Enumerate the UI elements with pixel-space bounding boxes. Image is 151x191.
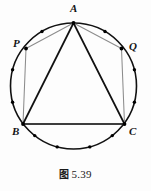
vertex-dot-group <box>21 21 126 126</box>
geometry-canvas <box>0 0 151 191</box>
point-label-B: B <box>12 126 19 137</box>
figure-caption: 图5.39 <box>0 166 151 181</box>
vertex-dot-B <box>21 122 25 126</box>
arc-dot-2 <box>103 30 106 33</box>
chord-PB <box>23 49 26 125</box>
arc-dot-5 <box>133 68 136 71</box>
chord-QC <box>122 49 125 125</box>
arc-dot-7 <box>33 134 36 137</box>
arc-dot-8 <box>56 145 59 148</box>
triangle-ABC <box>23 23 125 124</box>
segment-AB <box>23 23 74 124</box>
vertex-dot-P <box>24 47 28 51</box>
caption-number: 5.39 <box>69 168 91 180</box>
arc-dot-1 <box>40 30 43 33</box>
caption-cjk-word: 图 <box>59 169 69 180</box>
arc-dot-10 <box>111 134 114 137</box>
light-chord-group <box>23 23 125 124</box>
arc-dot-9 <box>88 145 91 148</box>
point-label-A: A <box>70 3 77 14</box>
main-circle <box>11 23 137 149</box>
point-label-Q: Q <box>129 41 137 52</box>
point-label-C: C <box>129 126 136 137</box>
vertex-dot-Q <box>120 47 124 51</box>
point-label-P: P <box>13 38 20 49</box>
vertex-dot-A <box>72 21 76 25</box>
arc-dot-6 <box>133 101 136 104</box>
segment-AC <box>74 23 125 124</box>
geometry-figure: A P Q B C 图5.39 <box>0 0 151 191</box>
arc-dot-4 <box>11 101 14 104</box>
vertex-dot-C <box>123 122 127 126</box>
arc-dot-3 <box>11 68 14 71</box>
